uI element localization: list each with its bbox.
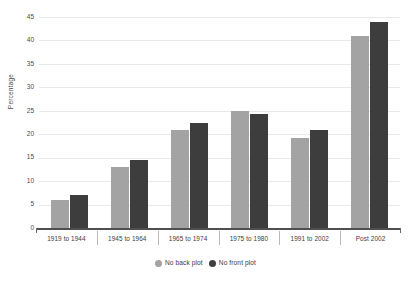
bar-front [370,22,388,228]
plot-area [39,17,400,228]
bar-group [340,17,400,228]
bar-front [70,195,88,228]
legend-label: No front plot [219,260,256,267]
y-tick-label-25: 25 [18,108,34,115]
y-axis-title: Percentage [7,60,14,124]
bar-back [231,111,249,228]
legend-item[interactable]: No front plot [209,260,256,267]
bar-back [51,200,69,228]
legend-swatch-front-icon [209,260,216,267]
bar-front [190,123,208,228]
chart-legend: No back plotNo front plot [0,260,411,267]
category-label: 1975 to 1980 [219,231,280,245]
y-tick-label-10: 10 [18,178,34,185]
bar-group [159,17,219,228]
y-tick-label-40: 40 [18,37,34,44]
y-tick-label-15: 15 [18,154,34,161]
bar-back [291,138,309,228]
bar-front [310,130,328,228]
legend-item[interactable]: No back plot [155,260,203,267]
category-label: 1945 to 1964 [97,231,158,245]
category-separator [279,231,280,245]
y-tick-label-30: 30 [18,84,34,91]
category-label: Post 2002 [340,231,401,245]
bar-back [171,130,189,228]
bar-chart: Percentage 051015202530354045 1919 to 19… [0,0,411,283]
category-separator [97,231,98,245]
category-label: 1965 to 1974 [158,231,219,245]
legend-swatch-back-icon [155,260,162,267]
category-label: 1991 to 2002 [279,231,340,245]
bar-group [220,17,280,228]
category-separator [340,231,341,245]
y-tick-label-5: 5 [18,201,34,208]
bar-group [39,17,99,228]
bar-front [250,114,268,228]
bar-back [111,167,129,228]
bar-front [130,160,148,228]
bar-group [99,17,159,228]
legend-label: No back plot [165,260,203,267]
category-label: 1919 to 1944 [36,231,97,245]
bar-group [280,17,340,228]
y-tick-label-45: 45 [18,14,34,21]
x-axis-category-labels: 1919 to 19441945 to 19641965 to 19741975… [36,231,401,245]
category-separator [219,231,220,245]
category-separator [158,231,159,245]
bar-back [351,36,369,228]
x-axis-line [36,228,401,230]
y-tick-label-20: 20 [18,131,34,138]
y-tick-label-35: 35 [18,61,34,68]
y-tick-label-0: 0 [18,225,34,232]
